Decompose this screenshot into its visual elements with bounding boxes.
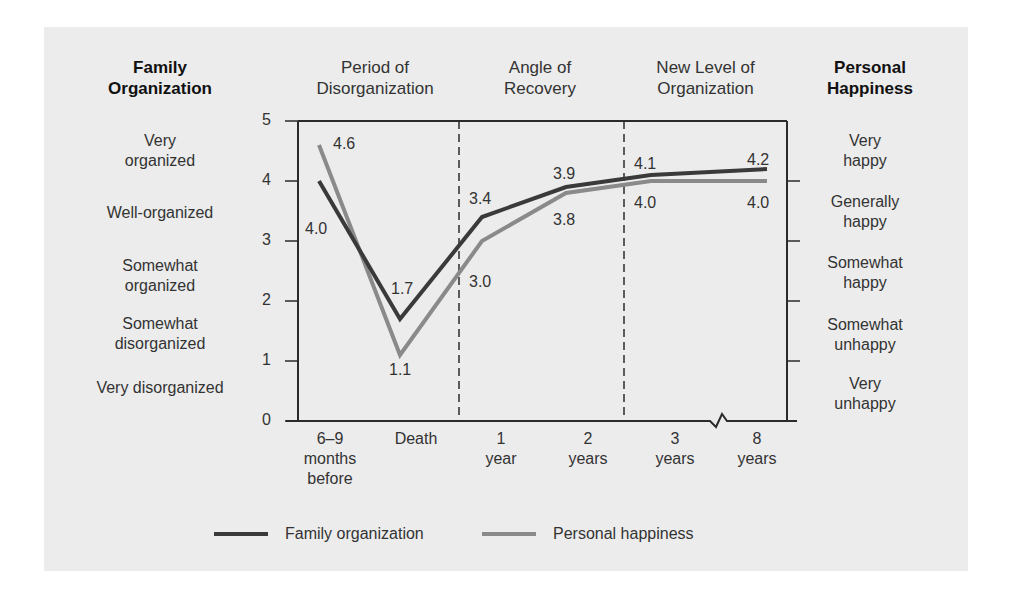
legend-item-family-organization: Family organization <box>214 525 424 543</box>
data-value-label: 4.0 <box>747 194 769 211</box>
legend-label: Family organization <box>285 525 424 543</box>
plot-frame <box>286 121 797 427</box>
data-value-label: 4.0 <box>305 220 327 237</box>
data-value-label: 3.9 <box>553 165 575 182</box>
legend-label: Personal happiness <box>553 525 694 543</box>
legend-item-personal-happiness: Personal happiness <box>482 525 694 543</box>
series-line-family-organization <box>319 169 767 319</box>
axis-ticks <box>285 121 800 421</box>
data-series <box>319 145 767 355</box>
line-chart: 4.04.61.71.13.43.03.93.84.14.04.24.0 <box>0 0 1012 595</box>
data-value-label: 3.4 <box>469 190 491 207</box>
legend-swatch-dark-line-icon <box>214 532 268 536</box>
data-value-label: 3.8 <box>553 211 575 228</box>
phase-dividers <box>459 121 624 421</box>
data-value-label: 4.0 <box>634 194 656 211</box>
data-value-label: 3.0 <box>469 273 491 290</box>
series-line-personal-happiness <box>319 145 767 355</box>
data-value-label: 1.7 <box>391 280 413 297</box>
legend-swatch-gray-line-icon <box>482 532 536 536</box>
data-value-label: 4.1 <box>634 155 656 172</box>
data-value-label: 4.2 <box>747 151 769 168</box>
data-value-label: 4.6 <box>333 135 355 152</box>
x-axis-with-break <box>286 414 797 427</box>
data-value-label: 1.1 <box>389 361 411 378</box>
